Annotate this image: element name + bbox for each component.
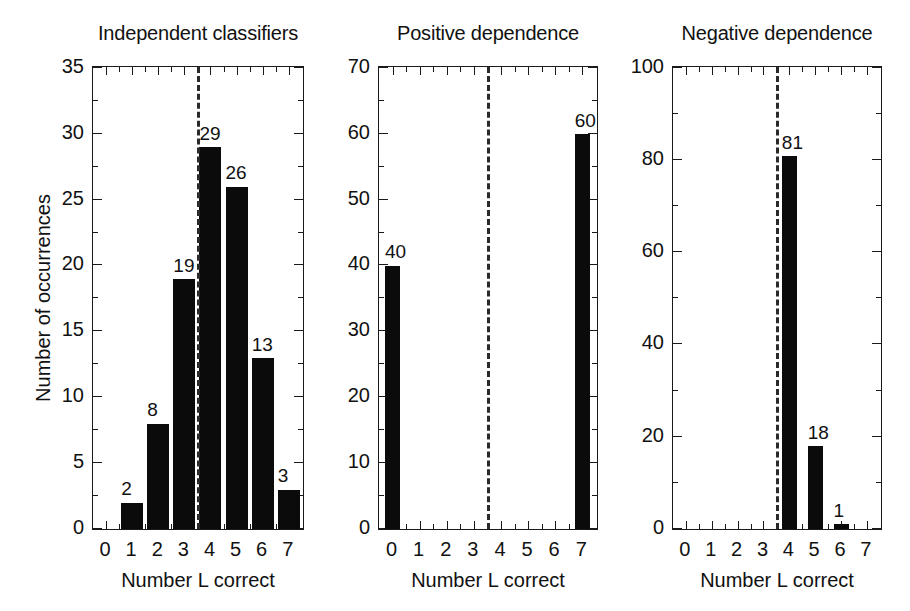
bar-value-label-3-4: 81: [782, 133, 803, 152]
y-tick-right-3-5: [872, 67, 881, 68]
x-tick-top-3-5: [815, 67, 816, 75]
y-tick-right-3-3: [872, 251, 881, 252]
y-minor-tick-3-1: [673, 390, 678, 391]
y-minor-tick-3-0: [673, 482, 678, 483]
y-tick-3-4: [673, 159, 682, 160]
x-axis-title-3: Number L correct: [672, 569, 882, 592]
y-tick-label-3-2: 40: [614, 332, 664, 352]
y-minor-tick-right-3-1: [876, 390, 881, 391]
x-tick-top-3-3: [763, 67, 764, 75]
y-tick-label-3-1: 20: [614, 425, 664, 445]
y-minor-tick-right-3-3: [876, 205, 881, 206]
y-minor-tick-right-3-4: [876, 113, 881, 114]
y-minor-tick-right-3-2: [876, 297, 881, 298]
y-minor-tick-3-4: [673, 113, 678, 114]
x-tick-3-3: [763, 521, 764, 529]
x-tick-3-2: [738, 521, 739, 529]
y-tick-right-3-4: [872, 159, 881, 160]
y-tick-right-3-1: [872, 436, 881, 437]
x-minor-tick-3-1: [725, 524, 726, 529]
y-tick-3-0: [673, 528, 682, 529]
panel-title-3: Negative dependence: [672, 22, 882, 45]
bar-3-4: [782, 156, 797, 529]
y-minor-tick-3-2: [673, 297, 678, 298]
x-minor-tick-top-3-4: [802, 67, 803, 72]
x-tick-top-3-2: [738, 67, 739, 75]
x-minor-tick-3-5: [828, 524, 829, 529]
plot-area-3: [672, 66, 882, 530]
x-tick-top-3-7: [867, 67, 868, 75]
x-tick-3-7: [867, 521, 868, 529]
x-minor-tick-3-4: [802, 524, 803, 529]
y-tick-3-3: [673, 251, 682, 252]
x-tick-label-3-7: 7: [850, 539, 882, 559]
x-minor-tick-3-6: [854, 524, 855, 529]
bar-value-label-3-6: 1: [834, 501, 845, 520]
y-minor-tick-3-3: [673, 205, 678, 206]
bar-3-5: [808, 446, 823, 529]
x-tick-3-1: [712, 521, 713, 529]
y-tick-label-3-0: 0: [614, 517, 664, 537]
x-minor-tick-3-0: [699, 524, 700, 529]
x-tick-top-3-4: [789, 67, 790, 75]
y-tick-right-3-0: [872, 528, 881, 529]
chart-panel-3: Negative dependence020406080100012345678…: [0, 0, 910, 611]
bar-value-label-3-5: 18: [808, 423, 829, 442]
x-minor-tick-top-3-6: [854, 67, 855, 72]
figure-root: Independent classifiers05101520253035012…: [0, 0, 910, 611]
threshold-dashed-line-3: [776, 67, 779, 529]
x-tick-top-3-6: [841, 67, 842, 75]
x-minor-tick-top-3-2: [751, 67, 752, 72]
y-tick-label-3-4: 80: [614, 148, 664, 168]
x-tick-top-3-0: [686, 67, 687, 75]
x-minor-tick-top-3-5: [828, 67, 829, 72]
x-minor-tick-3-2: [751, 524, 752, 529]
y-minor-tick-right-3-0: [876, 482, 881, 483]
x-minor-tick-top-3-1: [725, 67, 726, 72]
y-tick-right-3-2: [872, 343, 881, 344]
y-tick-3-5: [673, 67, 682, 68]
y-tick-label-3-5: 100: [614, 56, 664, 76]
y-tick-label-3-3: 60: [614, 240, 664, 260]
x-tick-3-0: [686, 521, 687, 529]
y-tick-3-1: [673, 436, 682, 437]
x-tick-top-3-1: [712, 67, 713, 75]
bar-3-6: [834, 524, 849, 529]
y-tick-3-2: [673, 343, 682, 344]
x-minor-tick-top-3-0: [699, 67, 700, 72]
